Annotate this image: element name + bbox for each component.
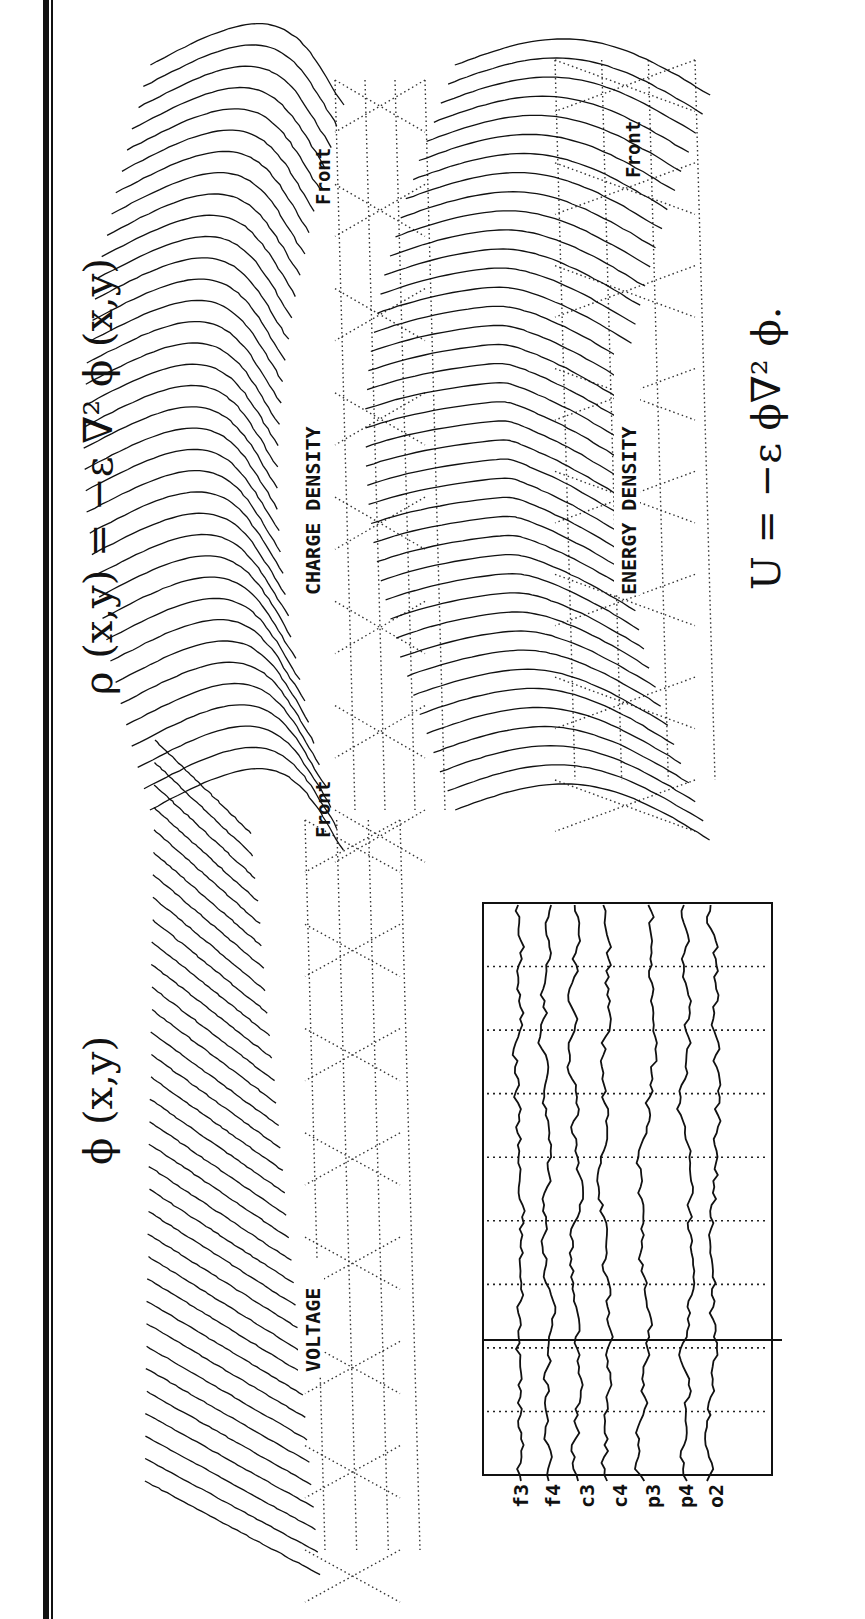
charge-front-label: Front [312, 148, 334, 205]
eeg-box [483, 903, 772, 1475]
floor-grids [305, 60, 715, 1602]
eeg-traces [513, 905, 721, 1481]
energy-density-label: ENERGY DENSITY [617, 426, 641, 595]
equation-phi: ϕ (x,y) [75, 1036, 121, 1165]
eeg-panel: f3 f4 c3 c4 p3 p4 o2 [483, 903, 782, 1508]
eeg-label-c3: c3 [575, 1484, 599, 1508]
eeg-channel-labels: f3 f4 c3 c4 p3 p4 o2 [509, 1484, 728, 1508]
figure-canvas: ϕ (x,y) ρ (x,y) = −ε ∇² ϕ (x,y) U = −ε ϕ… [0, 0, 865, 1619]
voltage-label-group: VOLTAGE [298, 1258, 325, 1376]
eeg-label-p4: p4 [674, 1484, 698, 1508]
charge-density-label: CHARGE DENSITY [301, 426, 325, 595]
energy-label-group: ENERGY DENSITY [614, 345, 641, 595]
equation-energy: U = −ε ϕ∇² ϕ. [743, 306, 789, 590]
voltage-surface [145, 740, 320, 1575]
eeg-label-p3: p3 [641, 1484, 665, 1508]
energy-front-label: Front [622, 121, 644, 178]
voltage-label: VOLTAGE [301, 1288, 325, 1372]
eeg-label-o2: o2 [704, 1484, 728, 1508]
charge-label-group: CHARGE DENSITY [298, 345, 325, 595]
eeg-label-c4: c4 [608, 1484, 632, 1508]
eeg-label-f4: f4 [541, 1484, 565, 1508]
energy-density-surface [365, 39, 710, 840]
frame-border [43, 0, 53, 1619]
eeg-label-f3: f3 [509, 1484, 533, 1508]
eeg-grid [487, 967, 768, 1412]
voltage-front-label: Front [312, 781, 334, 838]
